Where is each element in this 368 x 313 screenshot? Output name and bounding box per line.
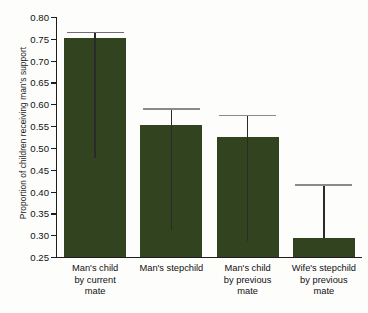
- y-axis-tick-label: 0.30: [30, 230, 49, 241]
- y-axis-tick-label: 0.45: [30, 164, 49, 175]
- y-axis-tick-label: 0.25: [30, 252, 49, 263]
- x-axis-tick-label-line: by previous: [286, 275, 362, 287]
- y-axis-tick-mark: [51, 213, 57, 214]
- y-axis-tick-label: 0.80: [30, 12, 49, 23]
- y-axis-tick-label: 0.40: [30, 186, 49, 197]
- error-bar-stem: [323, 184, 324, 238]
- y-axis-tick-label: 0.50: [30, 142, 49, 153]
- bar: [293, 238, 355, 257]
- error-bar-stem: [247, 115, 248, 242]
- x-axis-tick-label-line: mate: [57, 286, 133, 298]
- y-axis-tick-mark: [51, 17, 57, 18]
- x-axis-tick-label-line: mate: [286, 286, 362, 298]
- x-axis-tick-label-line: Man's stepchild: [133, 263, 209, 275]
- x-axis-tick-label-line: by previous: [210, 275, 286, 287]
- x-axis-tick-label-line: Man's child: [57, 263, 133, 275]
- y-axis-tick-mark: [51, 170, 57, 171]
- error-bar-stem: [171, 108, 172, 230]
- bar-chart-figure: Proportion of children receiving man's s…: [0, 0, 368, 313]
- y-axis-tick-label: 0.65: [30, 77, 49, 88]
- y-axis-tick-mark: [51, 257, 57, 258]
- y-axis-tick-label: 0.35: [30, 208, 49, 219]
- y-axis-tick-mark: [51, 192, 57, 193]
- x-axis-tick-label-line: by current: [57, 275, 133, 287]
- y-axis-tick-mark: [51, 148, 57, 149]
- x-axis-tick-label: Wife's stepchildby previousmate: [286, 263, 362, 298]
- y-axis-tick-mark: [51, 39, 57, 40]
- error-bar-stem: [94, 32, 95, 159]
- plot-area: 0.800.750.700.650.600.550.500.450.400.35…: [57, 17, 362, 257]
- y-axis-line: [56, 17, 57, 258]
- y-axis-tick-label: 0.55: [30, 121, 49, 132]
- y-axis-title: Proportion of children receiving man's s…: [18, 18, 28, 248]
- x-axis-tick-label-line: Man's child: [210, 263, 286, 275]
- y-axis-tick-mark: [51, 61, 57, 62]
- x-axis-tick-label-line: mate: [210, 286, 286, 298]
- y-axis-tick-mark: [51, 126, 57, 127]
- y-axis-tick-label: 0.75: [30, 33, 49, 44]
- y-axis-tick-label: 0.70: [30, 55, 49, 66]
- error-bar-cap-upper: [143, 108, 200, 110]
- error-bar-cap-upper: [295, 184, 352, 186]
- x-axis-tick-label-line: Wife's stepchild: [286, 263, 362, 275]
- x-axis-tick-label: Man's stepchild: [133, 263, 209, 275]
- error-bar-cap-upper: [219, 115, 276, 117]
- figure-caption: [22, 304, 358, 313]
- y-axis-tick-mark: [51, 235, 57, 236]
- x-axis-tick-label: Man's childby currentmate: [57, 263, 133, 298]
- y-axis-tick-mark: [51, 82, 57, 83]
- error-bar-cap-upper: [67, 32, 124, 34]
- x-axis-line: [56, 257, 362, 258]
- y-axis-tick-mark: [51, 104, 57, 105]
- y-axis-tick-label: 0.60: [30, 99, 49, 110]
- x-axis-tick-label: Man's childby previousmate: [210, 263, 286, 298]
